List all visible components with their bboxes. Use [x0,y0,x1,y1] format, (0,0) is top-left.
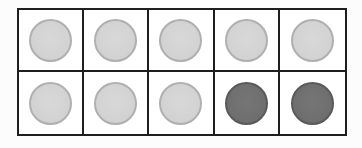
ten-frame-cell-r2-c1 [19,72,84,134]
light-counter-circle-icon [29,19,72,62]
ten-frame-cell-r2-c2 [84,72,149,134]
ten-frame-cell-r1-c4 [215,10,280,72]
ten-frame-cell-r2-c4 [215,72,280,134]
ten-frame-cell-r1-c2 [84,10,149,72]
ten-frame-cell-r1-c3 [149,10,214,72]
dark-counter-circle-icon [291,82,334,125]
light-counter-circle-icon [291,19,334,62]
light-counter-circle-icon [159,19,202,62]
ten-frame-cell-r2-c5 [280,72,345,134]
light-counter-circle-icon [94,19,137,62]
light-counter-circle-icon [94,82,137,125]
light-counter-circle-icon [159,82,202,125]
ten-frame-cell-r1-c1 [19,10,84,72]
dark-counter-circle-icon [225,82,268,125]
ten-frame-cell-r1-c5 [280,10,345,72]
ten-frame-grid [17,8,347,136]
light-counter-circle-icon [29,82,72,125]
light-counter-circle-icon [225,19,268,62]
ten-frame-cell-r2-c3 [149,72,214,134]
